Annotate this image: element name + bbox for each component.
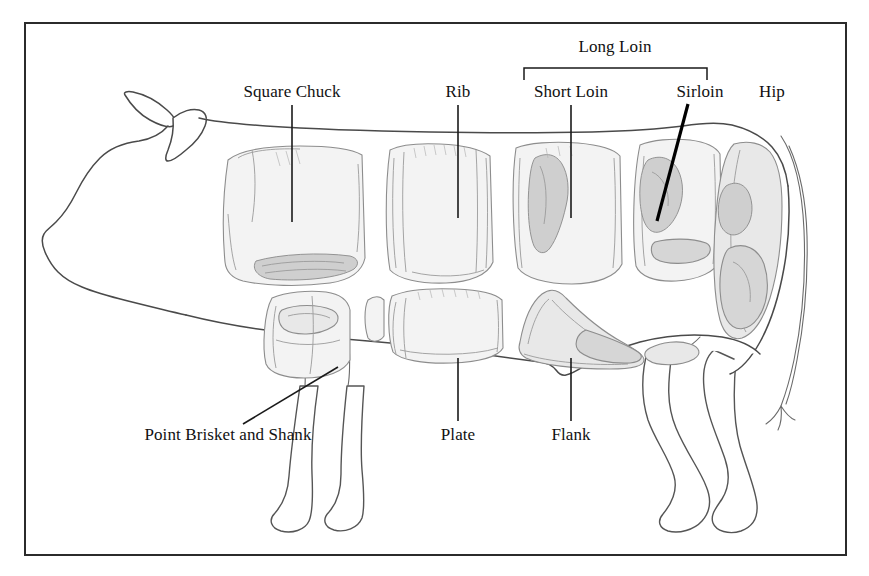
body-outline (124, 92, 175, 127)
label-plate: Plate (441, 425, 476, 444)
hind-leg-far (643, 350, 710, 532)
cut-square-chuck (223, 146, 365, 285)
label-short-loin: Short Loin (534, 82, 609, 101)
hind-leg-near (704, 350, 758, 533)
label-hip: Hip (759, 82, 785, 101)
label-point-brisket-and-shank: Point Brisket and Shank (144, 425, 312, 444)
head-outline (42, 126, 186, 315)
cut-rib (386, 144, 493, 283)
cut-flank (519, 290, 644, 369)
cut-sirloin (634, 139, 722, 281)
front-leg-near (325, 386, 364, 531)
label-square-chuck: Square Chuck (243, 82, 340, 101)
cut-point-brisket-and-shank (264, 291, 350, 378)
beef-cuts-figure: Long Loin Square Chuck Rib Short Loin Si… (0, 0, 869, 576)
label-flank: Flank (551, 425, 591, 444)
cut-plate (389, 289, 503, 363)
label-sirloin: Sirloin (677, 82, 724, 101)
long-loin-bracket (524, 68, 707, 80)
cut-short-loin (513, 142, 622, 284)
label-long-loin: Long Loin (578, 37, 652, 56)
label-rib: Rib (446, 82, 471, 101)
beef-cuts-illustration: Long Loin Square Chuck Rib Short Loin Si… (0, 0, 869, 576)
cut-fragment-chuck-end (365, 297, 384, 341)
front-leg-far (271, 386, 318, 532)
tail-tassel (766, 406, 795, 430)
